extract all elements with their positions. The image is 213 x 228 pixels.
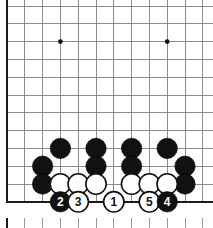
black-stone-d5 [50,138,70,158]
star-point-right [165,39,170,44]
black-stone-j5 [157,138,177,158]
go-diagram: 23154 [0,0,213,228]
move-stone-2-label: 2 [57,195,64,209]
move-stone-5-label: 5 [146,195,153,209]
move-stone-1-label: 1 [110,195,117,209]
white-stone-k3b [157,174,177,194]
move-stone-3-label: 3 [75,195,82,209]
black-stone-h5 [121,138,141,158]
black-stone-f5 [86,138,106,158]
go-board: 23154 [0,0,213,228]
black-stone-c4 [32,156,52,176]
white-stone-f3 [86,174,106,194]
black-stone-k4 [175,156,195,176]
move-stone-4-label: 4 [164,195,171,209]
star-point-left [58,39,63,44]
